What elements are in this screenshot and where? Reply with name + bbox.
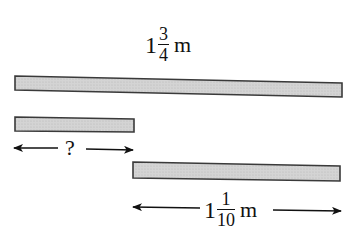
known-length-bar [133,162,340,181]
unknown-length-bar [15,117,134,132]
total-length-label: 1 3 4 m [145,25,191,64]
known-arrow-right [273,210,341,211]
known-length-denominator: 10 [217,210,235,229]
known-length-whole: 1 [204,198,216,222]
total-length-numerator: 3 [158,25,169,44]
total-length-fraction: 3 4 [158,25,169,64]
known-length-fraction: 1 10 [217,190,235,229]
total-length-denominator: 4 [159,45,168,64]
known-arrow-left [133,207,200,208]
total-length-whole: 1 [145,33,157,57]
total-length-bar [15,76,342,97]
known-length-label: 1 1 10 m [204,190,257,229]
known-length-unit: m [240,199,257,221]
unknown-length-label: ? [65,137,75,159]
total-length-unit: m [174,34,191,56]
known-length-numerator: 1 [221,190,232,209]
unknown-arrow-right [86,149,133,150]
